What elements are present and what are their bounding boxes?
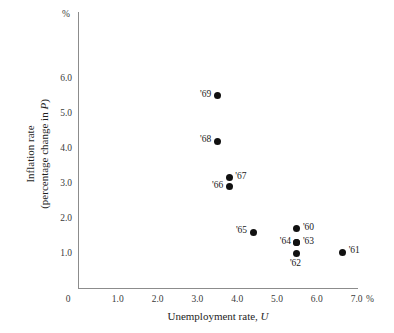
y-axis-title-line2-pre: (percentage change in (38, 110, 50, 209)
data-point-label: '60 (303, 222, 314, 232)
data-point-marker (339, 249, 346, 256)
data-point-label: '68 (200, 134, 211, 144)
data-point-label: '64 (280, 236, 291, 246)
data-point-marker (293, 239, 300, 246)
data-point-label: '66 (212, 180, 223, 190)
data-point-marker (226, 174, 233, 181)
y-axis-title-variable: P (38, 103, 50, 110)
data-point-marker (226, 183, 233, 190)
plot-area: '69'68'67'66'65'60'64'63'62'61 (0, 0, 394, 333)
y-axis-title-line2: (percentage change in P) (37, 44, 51, 264)
data-point-marker (214, 92, 221, 99)
data-point-label: '65 (236, 225, 247, 235)
data-point-marker (293, 250, 300, 257)
data-point-marker (250, 229, 257, 236)
phillips-curve-scatter-chart: % % 1.02.03.04.05.06.0 01.02.03.04.05.06… (0, 0, 394, 333)
y-axis-title: Inflation rate (percentage change in P) (23, 44, 51, 264)
y-axis-title-line1: Inflation rate (23, 44, 37, 264)
data-point-marker (214, 138, 221, 145)
data-point-marker (293, 225, 300, 232)
data-point-label: '67 (235, 171, 246, 181)
x-axis-title-text: Unemployment rate, (167, 310, 260, 322)
x-axis-title: Unemployment rate, U (78, 310, 358, 322)
y-axis-title-line2-post: ) (38, 99, 50, 103)
data-point-label: '61 (349, 245, 360, 255)
data-point-label: '63 (303, 236, 314, 246)
data-point-label: '69 (200, 89, 211, 99)
x-axis-title-variable: U (261, 310, 269, 322)
data-point-label: '62 (290, 258, 301, 268)
